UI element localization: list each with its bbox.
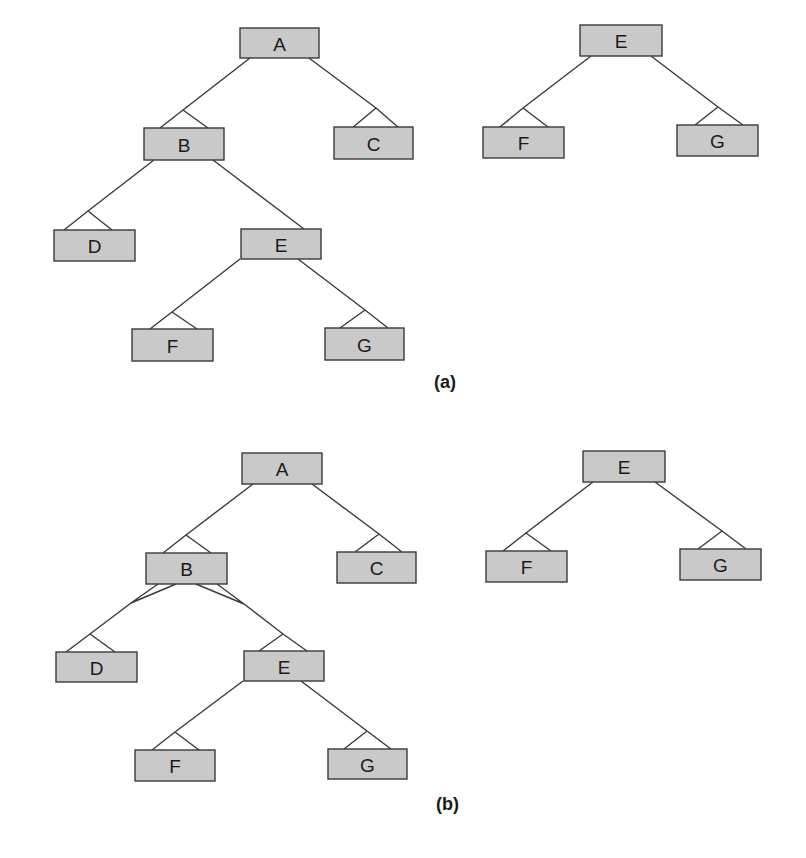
node-e: E — [583, 451, 665, 482]
node-label: D — [90, 658, 104, 679]
node-label: C — [367, 134, 381, 155]
edge-e-f — [503, 482, 593, 551]
caption-b: (b) — [436, 794, 459, 815]
node-label: G — [710, 131, 725, 152]
node-label: C — [370, 558, 384, 579]
node-label: A — [273, 34, 286, 55]
node-label: E — [615, 31, 628, 52]
node-e: E — [244, 651, 324, 681]
node-c: C — [337, 552, 416, 583]
panel-b: ABCDEFGEFG — [56, 451, 761, 781]
edge-b-d — [64, 160, 154, 230]
node-label: E — [275, 235, 288, 256]
edge-b-d — [66, 584, 176, 652]
node-label: B — [180, 559, 193, 580]
node-f: F — [135, 750, 215, 781]
node-d: D — [54, 230, 135, 261]
node-label: D — [88, 236, 102, 257]
node-g: G — [680, 549, 761, 580]
node-label: E — [278, 657, 291, 678]
node-g: G — [328, 749, 407, 779]
node-label: F — [167, 336, 179, 357]
node-g: G — [325, 328, 404, 360]
node-label: F — [518, 133, 530, 154]
node-f: F — [132, 329, 213, 361]
node-a: A — [242, 453, 322, 484]
tree-diagram: ABCDEFGEFGABCDEFGEFG — [0, 0, 806, 858]
node-b: B — [144, 128, 224, 160]
node-label: G — [360, 755, 375, 776]
node-label: F — [169, 756, 181, 777]
node-f: F — [483, 127, 564, 158]
node-label: A — [276, 459, 289, 480]
edge-b-e — [213, 160, 304, 229]
edge-e-f — [152, 681, 243, 750]
panel-a: ABCDEFGEFG — [54, 25, 758, 361]
node-label: B — [178, 135, 191, 156]
node-label: G — [713, 555, 728, 576]
caption-a: (a) — [434, 372, 456, 393]
edge-a-c — [309, 58, 399, 128]
edge-e-f — [500, 56, 591, 127]
node-b: B — [146, 553, 227, 584]
node-e: E — [241, 229, 321, 259]
edge-e-g — [655, 482, 746, 549]
edge-e-f — [150, 259, 240, 329]
node-label: F — [521, 557, 533, 578]
edge-e-g — [301, 681, 391, 749]
edge-e-g — [298, 259, 388, 328]
edge-b-e — [196, 584, 307, 651]
node-f: F — [486, 551, 567, 582]
edge-a-b — [160, 58, 250, 128]
node-e: E — [580, 25, 662, 56]
node-c: C — [334, 127, 413, 159]
edge-a-b — [163, 484, 253, 553]
edge-a-c — [312, 484, 402, 552]
node-label: G — [357, 335, 372, 356]
node-d: D — [56, 652, 137, 682]
node-g: G — [677, 125, 758, 156]
edge-e-g — [651, 56, 743, 125]
node-a: A — [240, 28, 319, 58]
node-label: E — [618, 457, 631, 478]
